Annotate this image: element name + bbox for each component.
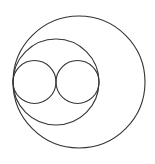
small-circle-left [13, 61, 56, 104]
small-circle-right [56, 61, 99, 104]
diagram-canvas [0, 0, 155, 164]
nested-tangent-circles-diagram [0, 0, 155, 164]
large-circle [13, 16, 145, 148]
